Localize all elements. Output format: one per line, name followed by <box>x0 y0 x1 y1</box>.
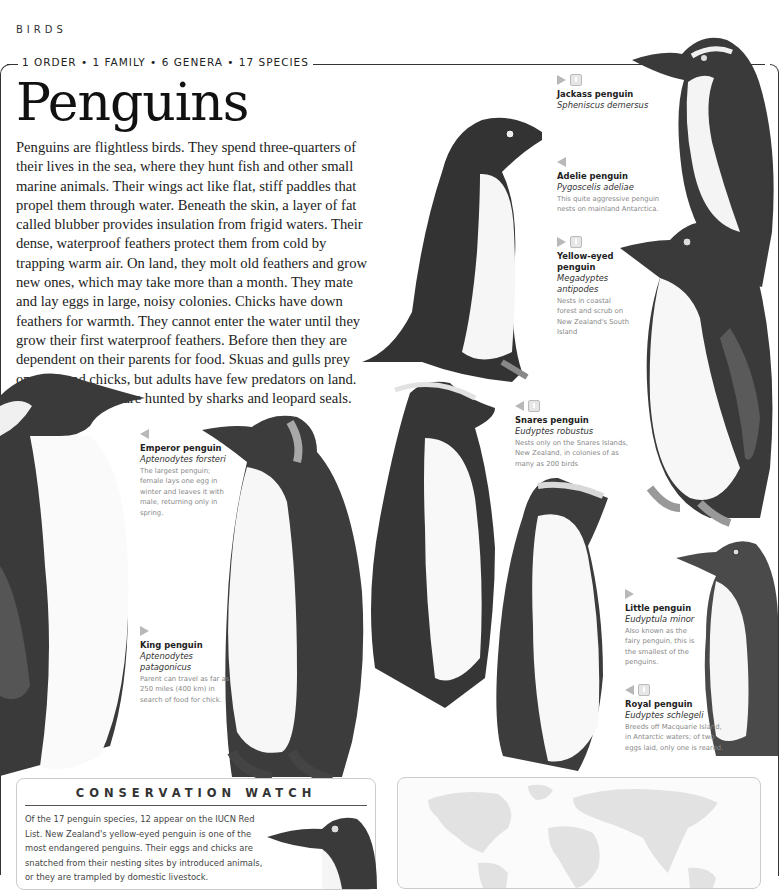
species-description: Also known as the fairy penguin, this is… <box>625 626 697 668</box>
latin-name: Eudyptes schlegeli <box>625 710 729 721</box>
arrow-left-icon <box>557 157 566 167</box>
heading-rule <box>25 805 367 806</box>
yellow-eyed-penguin-illustration <box>620 218 778 528</box>
arrow-right-icon <box>557 237 566 247</box>
common-name: Little penguin <box>625 603 697 614</box>
species-description: This quite aggressive penguin nests on m… <box>557 194 677 215</box>
king-penguin-illustration <box>202 412 372 782</box>
arrow-left-icon <box>625 685 634 695</box>
conservation-status-icon <box>570 74 582 86</box>
latin-name: Megadyptes antipodes <box>557 273 629 295</box>
species-caption-emperor: Emperor penguin Aptenodytes forsteri The… <box>140 428 226 518</box>
conservation-status-icon <box>638 684 650 696</box>
page-title: Penguins <box>16 72 249 132</box>
common-name: Royal penguin <box>625 699 729 710</box>
species-caption-jackass: Jackass penguin Spheniscus demersus <box>557 74 667 111</box>
conservation-text: Of the 17 penguin species, 12 appear on … <box>25 812 265 885</box>
adelie-penguin-illustration <box>362 112 562 392</box>
species-description: Parent can travel as far as 250 miles (4… <box>140 674 230 705</box>
arrow-right-icon <box>625 589 634 599</box>
species-description: Nests only on the Snares Islands, New Ze… <box>515 438 633 469</box>
royal-penguin-illustration <box>478 476 618 776</box>
latin-name: Aptenodytes patagonicus <box>140 651 230 673</box>
species-caption-adelie: Adelie penguin Pygoscelis adeliae This q… <box>557 156 677 215</box>
conservation-status-icon <box>570 236 582 248</box>
common-name: Snares penguin <box>515 415 633 426</box>
species-caption-king: King penguin Aptenodytes patagonicus Par… <box>140 625 230 705</box>
arrow-left-icon <box>140 429 149 439</box>
species-caption-yellow-eyed: Yellow-eyed penguin Megadyptes antipodes… <box>557 236 629 338</box>
latin-name: Aptenodytes forsteri <box>140 454 226 465</box>
conservation-watch-box: CONSERVATION WATCH Of the 17 penguin spe… <box>16 778 376 890</box>
species-description: Nests in coastal forest and scrub on New… <box>557 296 629 338</box>
common-name: Yellow-eyed penguin <box>557 251 629 273</box>
common-name: Jackass penguin <box>557 89 667 100</box>
conservation-status-icon <box>528 400 540 412</box>
latin-name: Eudyptes robustus <box>515 426 633 437</box>
distribution-map <box>397 777 761 889</box>
species-description: Breeds off Macquarie Island, in Antarcti… <box>625 722 729 753</box>
arrow-right-icon <box>557 75 566 85</box>
frame-corner <box>0 64 13 77</box>
conservation-heading: CONSERVATION WATCH <box>17 786 375 800</box>
emperor-penguin-illustration <box>0 366 150 780</box>
latin-name: Pygoscelis adeliae <box>557 182 677 193</box>
species-description: The largest penguin; female lays one egg… <box>140 466 226 518</box>
common-name: Emperor penguin <box>140 443 226 454</box>
classification-line: 1 ORDER • 1 FAMILY • 6 GENERA • 17 SPECI… <box>18 56 313 68</box>
species-caption-royal: Royal penguin Eudyptes schlegeli Breeds … <box>625 684 729 753</box>
yellow-eyed-penguin-head-illustration <box>267 809 377 889</box>
latin-name: Eudyptula minor <box>625 614 697 625</box>
latin-name: Spheniscus demersus <box>557 100 667 111</box>
section-label: BIRDS <box>16 24 67 35</box>
common-name: King penguin <box>140 640 230 651</box>
common-name: Adelie penguin <box>557 171 677 182</box>
species-caption-snares: Snares penguin Eudyptes robustus Nests o… <box>515 400 633 469</box>
world-map-illustration <box>398 778 760 888</box>
species-caption-little: Little penguin Eudyptula minor Also know… <box>625 588 697 668</box>
arrow-left-icon <box>515 401 524 411</box>
arrow-right-icon <box>140 626 149 636</box>
